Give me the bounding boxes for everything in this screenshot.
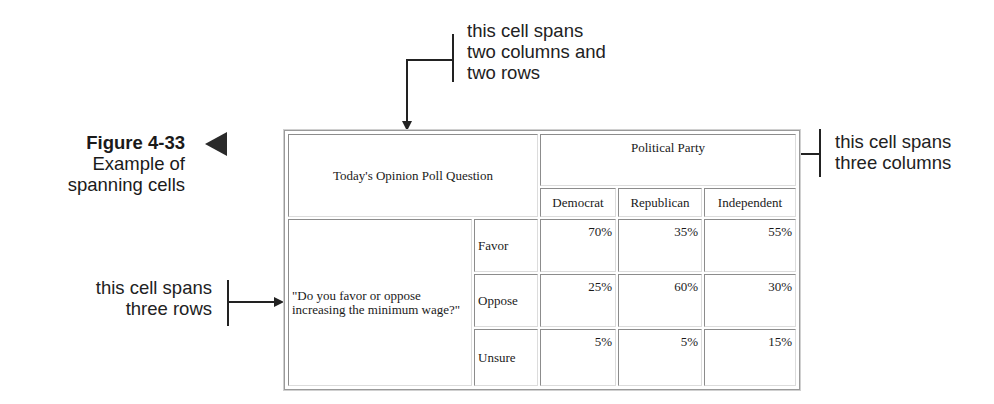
- value-cell: 5%: [540, 329, 616, 386]
- table-row: "Do you favor or oppose increasing the m…: [288, 219, 796, 272]
- column-header-democrat: Democrat: [540, 188, 616, 217]
- corner-header-cell: Today's Opinion Poll Question: [288, 134, 538, 217]
- arrow-right-icon: [274, 297, 284, 307]
- callout-left-line1: this cell spans: [60, 277, 212, 298]
- value-cell: 35%: [618, 219, 702, 272]
- row-label-favor: Favor: [474, 219, 538, 272]
- callout-top-line2: two columns and: [467, 41, 606, 62]
- figure-description-line2: spanning cells: [60, 174, 185, 195]
- header-row-1: Today's Opinion Poll Question Political …: [288, 134, 796, 186]
- value-cell: 55%: [704, 219, 796, 272]
- callout-top-line3: two rows: [467, 62, 606, 83]
- callout-left-line2: three rows: [60, 298, 212, 319]
- figure-caption: Figure 4-33 Example of spanning cells: [60, 132, 185, 195]
- callout-left-leader: [228, 301, 276, 303]
- callout-left-bracket: [227, 280, 229, 326]
- column-header-republican: Republican: [618, 188, 702, 217]
- question-cell: "Do you favor or oppose increasing the m…: [288, 219, 472, 386]
- callout-top-leader: [406, 59, 408, 124]
- figure-description-line1: Example of: [60, 153, 185, 174]
- poll-table-frame: Today's Opinion Poll Question Political …: [284, 130, 800, 390]
- callout-right-line2: three columns: [835, 152, 951, 173]
- callout-top: this cell spans two columns and two rows: [467, 20, 606, 83]
- value-cell: 15%: [704, 329, 796, 386]
- callout-top-connector: [406, 59, 453, 61]
- callout-right-line1: this cell spans: [835, 131, 951, 152]
- callout-right-leader: [798, 153, 820, 155]
- row-label-unsure: Unsure: [474, 329, 538, 386]
- callout-right: this cell spans three columns: [835, 131, 951, 173]
- row-label-oppose: Oppose: [474, 274, 538, 327]
- triangle-marker-icon: [205, 132, 227, 156]
- value-cell: 60%: [618, 274, 702, 327]
- value-cell: 5%: [618, 329, 702, 386]
- column-header-independent: Independent: [704, 188, 796, 217]
- value-cell: 25%: [540, 274, 616, 327]
- callout-left: this cell spans three rows: [60, 277, 212, 319]
- figure-number: Figure 4-33: [60, 132, 185, 153]
- political-party-header-cell: Political Party: [540, 134, 796, 186]
- value-cell: 30%: [704, 274, 796, 327]
- poll-table: Today's Opinion Poll Question Political …: [286, 132, 798, 388]
- callout-top-line1: this cell spans: [467, 20, 606, 41]
- value-cell: 70%: [540, 219, 616, 272]
- callout-top-bracket: [452, 34, 454, 82]
